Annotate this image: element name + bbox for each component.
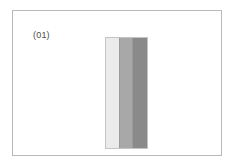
layer-band-light: [106, 38, 119, 148]
layer-stack: [105, 37, 148, 149]
layer-band-medium: [120, 38, 132, 148]
panel-frame: (01): [12, 10, 222, 156]
layer-band-dark: [133, 38, 147, 148]
panel-label: (01): [33, 30, 50, 41]
figure-canvas: (01): [0, 0, 234, 166]
